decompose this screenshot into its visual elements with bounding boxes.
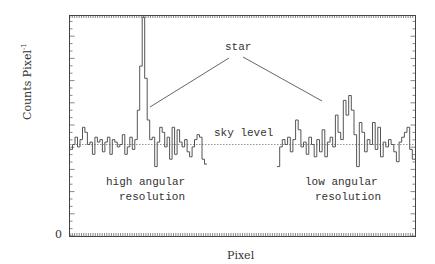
high-resolution-trace	[70, 17, 207, 167]
low-res-label-line2: resolution	[315, 191, 381, 203]
high-res-label-line2: resolution	[119, 191, 185, 203]
star-pointer-left	[150, 58, 229, 107]
star-label: star	[225, 41, 251, 53]
x-axis-title: Pixel	[227, 249, 254, 262]
y-axis-title-superscript: -1	[20, 43, 28, 50]
sky-level-label: sky level	[214, 127, 273, 139]
star-pointer-right	[243, 57, 322, 101]
high-res-label-line1: high angular	[106, 176, 185, 188]
y-axis-title: Counts Pixel-1	[20, 43, 34, 120]
y-axis-title-text: Counts Pixel	[21, 50, 34, 120]
y-zero-tick-label: 0	[55, 228, 62, 241]
low-res-label-line1: low angular	[305, 176, 378, 188]
low-resolution-trace	[277, 96, 415, 167]
